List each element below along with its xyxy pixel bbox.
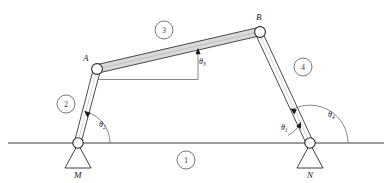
link-badge-3-text: 3 <box>162 26 166 35</box>
pivot-support-N: N <box>297 138 323 180</box>
theta4-label: θ4 <box>328 110 335 120</box>
pivot-M-joint-circle <box>73 138 83 148</box>
joint-A-circle <box>92 64 103 75</box>
theta1-label: θ1 <box>281 123 288 133</box>
link-badge-2-text: 2 <box>64 100 68 109</box>
link-badge-4-text: 4 <box>301 63 305 72</box>
linkage-diagram: θ3 θ2 θ4 θ1 <box>0 0 390 183</box>
link-2-crank <box>74 70 100 145</box>
link-3-coupler <box>96 27 261 73</box>
link-badge-4: 4 <box>294 58 312 76</box>
theta2-label: θ2 <box>99 120 106 130</box>
joint-label-A: A <box>82 53 89 63</box>
link-2-centerline <box>77 70 97 144</box>
link-badge-2: 2 <box>57 95 75 113</box>
linkage-svg: θ3 θ2 θ4 θ1 <box>0 0 390 183</box>
link-badge-1-text: 1 <box>184 156 188 165</box>
theta1-construction: θ1 <box>281 122 301 135</box>
link-badge-1: 1 <box>177 151 195 169</box>
joint-label-N: N <box>306 170 314 180</box>
link-4-edge-right <box>263 33 313 142</box>
pin-joint-B: B <box>255 12 266 37</box>
pivot-support-M: M <box>65 138 91 180</box>
pivot-N-joint-circle <box>305 138 315 148</box>
link-badge-3: 3 <box>155 21 173 39</box>
theta2-construction: θ2 <box>84 111 110 143</box>
pin-joint-A: A <box>82 53 102 74</box>
theta3-label: θ3 <box>199 57 206 67</box>
joint-B-circle <box>255 27 266 38</box>
link-3-centerline <box>97 32 260 70</box>
joint-label-M: M <box>73 170 82 180</box>
joint-label-B: B <box>256 12 262 22</box>
